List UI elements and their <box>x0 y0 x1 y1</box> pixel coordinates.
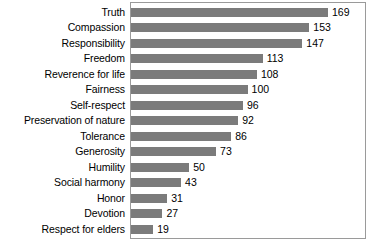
bar-value-label: 169 <box>332 5 350 21</box>
bar <box>131 147 216 156</box>
bar <box>131 163 189 172</box>
category-label: Tolerance <box>0 129 125 145</box>
category-label: Freedom <box>0 51 125 67</box>
bar-value-label: 31 <box>171 191 183 207</box>
bar <box>131 39 302 48</box>
chart-rows: Truth169Compassion153Responsibility147Fr… <box>0 0 391 251</box>
category-label: Fairness <box>0 82 125 98</box>
category-label: Preservation of nature <box>0 113 125 129</box>
bar <box>131 194 167 203</box>
bar-value-label: 108 <box>261 67 279 83</box>
category-label: Generosity <box>0 144 125 160</box>
bar <box>131 23 309 32</box>
bar-value-label: 27 <box>166 206 178 222</box>
bar-value-label: 73 <box>220 144 232 160</box>
category-label: Social harmony <box>0 175 125 191</box>
bar-value-label: 50 <box>193 160 205 176</box>
bar <box>131 116 238 125</box>
category-label: Respect for elders <box>0 222 125 238</box>
chart-row: Social harmony43 <box>0 175 391 191</box>
bar <box>131 54 263 63</box>
category-label: Reverence for life <box>0 67 125 83</box>
category-label: Truth <box>0 5 125 21</box>
chart-row: Devotion27 <box>0 206 391 222</box>
chart-row: Self-respect96 <box>0 98 391 114</box>
bar-value-label: 19 <box>157 222 169 238</box>
chart-row: Generosity73 <box>0 144 391 160</box>
chart-row: Fairness100 <box>0 82 391 98</box>
bar-value-label: 147 <box>306 36 324 52</box>
bar-value-label: 113 <box>267 51 284 67</box>
category-label: Devotion <box>0 206 125 222</box>
bar-chart: Truth169Compassion153Responsibility147Fr… <box>0 0 391 251</box>
bar-value-label: 96 <box>247 98 259 114</box>
chart-row: Tolerance86 <box>0 129 391 145</box>
chart-row: Respect for elders19 <box>0 222 391 238</box>
category-label: Humility <box>0 160 125 176</box>
bar <box>131 70 257 79</box>
bar-value-label: 86 <box>235 129 247 145</box>
category-label: Honor <box>0 191 125 207</box>
chart-row: Humility50 <box>0 160 391 176</box>
chart-row: Compassion153 <box>0 20 391 36</box>
bar <box>131 85 248 94</box>
category-label: Compassion <box>0 20 125 36</box>
bar <box>131 132 231 141</box>
chart-row: Reverence for life108 <box>0 67 391 83</box>
category-label: Self-respect <box>0 98 125 114</box>
chart-row: Truth169 <box>0 5 391 21</box>
chart-row: Responsibility147 <box>0 36 391 52</box>
chart-row: Honor31 <box>0 191 391 207</box>
bar <box>131 178 181 187</box>
bar <box>131 101 243 110</box>
chart-row: Preservation of nature92 <box>0 113 391 129</box>
bar <box>131 8 328 17</box>
chart-row: Freedom113 <box>0 51 391 67</box>
bar-value-label: 92 <box>242 113 254 129</box>
category-label: Responsibility <box>0 36 125 52</box>
bar <box>131 209 162 218</box>
bar-value-label: 43 <box>185 175 197 191</box>
bar-value-label: 100 <box>252 82 270 98</box>
bar <box>131 225 153 234</box>
bar-value-label: 153 <box>313 20 331 36</box>
